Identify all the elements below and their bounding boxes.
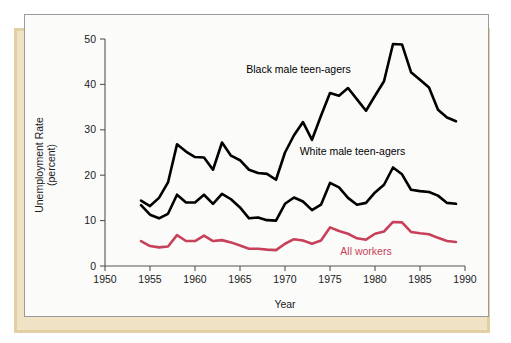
x-axis-tick-marks	[105, 266, 465, 271]
y-axis-title-line1: Unemployment Rate	[33, 117, 45, 213]
x-tick-label: 1960	[183, 273, 207, 285]
y-axis-tick-marks	[100, 39, 105, 266]
x-tick-label: 1955	[138, 273, 162, 285]
x-tick-label: 1965	[228, 273, 252, 285]
x-tick-label: 1990	[453, 273, 477, 285]
unemployment-rate-line-chart: 01020304050 1950195519601965197019751980…	[25, 15, 488, 316]
x-axis-tick-labels: 195019551960196519701975198019851990	[93, 273, 477, 285]
y-tick-label: 40	[84, 78, 96, 90]
y-tick-label: 50	[84, 33, 96, 45]
x-tick-label: 1975	[318, 273, 342, 285]
x-tick-label: 1980	[363, 273, 387, 285]
annotation-all-workers: All workers	[340, 245, 391, 257]
y-axis-title: Unemployment Rate (percent)	[33, 117, 57, 213]
series-line-all-workers	[141, 222, 456, 250]
x-tick-label: 1970	[273, 273, 297, 285]
y-tick-label: 30	[84, 123, 96, 135]
x-tick-label: 1950	[93, 273, 117, 285]
annotation-black-male-teenagers: Black male teen-agers	[246, 63, 350, 75]
y-axis-tick-labels: 01020304050	[84, 33, 96, 272]
annotation-white-male-teenagers: White male teen-agers	[300, 145, 406, 157]
y-axis-title-line2: (percent)	[45, 144, 57, 186]
y-tick-label: 20	[84, 169, 96, 181]
x-tick-label: 1985	[408, 273, 432, 285]
x-axis-title: Year	[274, 298, 296, 310]
series-line-white-male-teenagers	[141, 167, 456, 220]
y-tick-label: 0	[90, 260, 96, 272]
figure-root: 01020304050 1950195519601965197019751980…	[0, 0, 511, 343]
chart-card: 01020304050 1950195519601965197019751980…	[24, 14, 489, 317]
y-tick-label: 10	[84, 214, 96, 226]
